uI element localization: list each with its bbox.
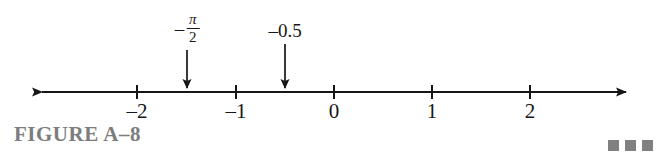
fraction-numerator: π [188,12,198,28]
fraction-neg-pi-over-2: – π 2 [175,12,200,45]
tick-label-two: 2 [525,101,536,122]
figure-a-8: – π 2 –0.5 –2 –1 0 1 2 FIGURE A–8 [0,0,667,157]
marker-square [642,140,653,151]
page-marker-squares [608,140,653,151]
fraction-minus-sign: – [175,19,187,38]
figure-caption: FIGURE A–8 [14,122,141,147]
tick-label-one: 1 [427,101,438,122]
marker-square [608,140,619,151]
annotation-label-neg-0-5: –0.5 [268,21,301,40]
annotation-label-neg-pi-over-2: – π 2 [175,12,200,45]
tick-label-minus2: –2 [127,101,148,122]
tick-label-minus1: –1 [226,101,247,122]
tick-label-zero: 0 [329,101,340,122]
fraction-denominator: 2 [188,29,198,45]
marker-square [625,140,636,151]
fraction-stack: π 2 [186,12,199,45]
